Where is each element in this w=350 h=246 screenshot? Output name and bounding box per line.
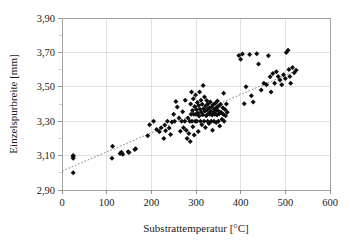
y-tick-label: 3,90 — [37, 13, 55, 24]
y-tick-label: 3,10 — [37, 150, 55, 161]
x-axis-title: Substrattemperatur [°C] — [143, 222, 249, 234]
x-tick-marks — [62, 190, 330, 194]
x-tick-label: 400 — [233, 197, 249, 208]
x-tick-label: 300 — [188, 197, 204, 208]
y-tick-label: 3,70 — [37, 47, 55, 58]
x-tick-label: 600 — [322, 197, 338, 208]
scatter-chart: 2,903,103,303,503,703,90 010020030040050… — [0, 0, 350, 246]
y-tick-label: 3,50 — [37, 81, 55, 92]
y-tick-label: 3,30 — [37, 116, 55, 127]
x-tick-label: 500 — [277, 197, 293, 208]
y-axis-title: Einzelspurbreite [mm] — [7, 54, 19, 153]
x-tick-label: 200 — [143, 197, 159, 208]
x-tick-labels: 0100200300400500600 — [59, 197, 338, 208]
x-tick-label: 0 — [59, 197, 64, 208]
y-tick-labels: 2,903,103,303,503,703,90 — [37, 13, 55, 196]
x-tick-label: 100 — [99, 197, 115, 208]
chart-figure: 2,903,103,303,503,703,90 010020030040050… — [0, 0, 350, 246]
y-tick-marks — [58, 18, 62, 190]
y-tick-label: 2,90 — [37, 185, 55, 196]
